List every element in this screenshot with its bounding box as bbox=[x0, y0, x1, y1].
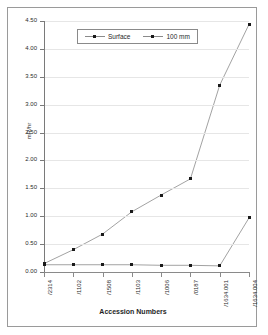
data-point-marker bbox=[189, 177, 192, 180]
x-tick-mark bbox=[249, 272, 250, 277]
legend-label-surface: Surface bbox=[108, 33, 130, 40]
y-tick-label: 4.50 bbox=[25, 16, 37, 25]
legend-marker-icon bbox=[143, 34, 163, 39]
x-tick-label: /0187 bbox=[193, 280, 200, 295]
y-tick: 4.00 bbox=[40, 49, 45, 50]
x-tick-mark bbox=[73, 272, 74, 277]
y-tick-mark bbox=[40, 133, 45, 134]
gridline bbox=[44, 244, 249, 245]
data-point-marker bbox=[248, 216, 251, 219]
y-tick-mark bbox=[40, 21, 45, 22]
x-tick-label: /1103 bbox=[135, 280, 142, 295]
legend-label-100mm: 100 mm bbox=[166, 33, 189, 40]
y-tick-label: 3.50 bbox=[25, 72, 37, 81]
gridline bbox=[44, 133, 249, 134]
y-tick: 1.50 bbox=[40, 188, 45, 189]
data-point-marker bbox=[130, 210, 133, 213]
data-point-marker bbox=[248, 23, 251, 26]
x-tick-mark bbox=[220, 272, 221, 277]
legend-item-surface[interactable]: Surface bbox=[85, 33, 130, 40]
y-tick-mark bbox=[40, 105, 45, 106]
x-tick-mark bbox=[44, 272, 45, 277]
series-line bbox=[44, 218, 249, 266]
y-tick: 0.50 bbox=[40, 244, 45, 245]
data-point-marker bbox=[160, 264, 163, 267]
y-tick-mark bbox=[40, 244, 45, 245]
y-tick-label: 0.50 bbox=[25, 239, 37, 248]
x-tick-label: /1006 bbox=[164, 280, 171, 295]
data-point-marker bbox=[130, 263, 133, 266]
y-tick-label: 4.00 bbox=[25, 44, 37, 53]
x-tick-label: /1102 bbox=[76, 280, 83, 295]
chart-figure-frame: 0.000.501.001.502.002.503.003.504.004.50… bbox=[7, 7, 257, 327]
chart-plot-canvas bbox=[8, 8, 258, 328]
y-tick-mark bbox=[40, 49, 45, 50]
x-tick-label: /1634.001 bbox=[223, 280, 230, 307]
y-tick-label: 3.00 bbox=[25, 100, 37, 109]
y-tick: 2.50 bbox=[40, 133, 45, 134]
y-axis-title: mR/hr bbox=[26, 123, 32, 139]
x-tick-label: /1634.004 bbox=[252, 280, 259, 307]
y-tick: 3.00 bbox=[40, 105, 45, 106]
gridline bbox=[44, 49, 249, 50]
y-tick: 4.50 bbox=[40, 21, 45, 22]
legend-item-100mm[interactable]: 100 mm bbox=[143, 33, 189, 40]
x-tick-mark bbox=[161, 272, 162, 277]
x-tick-label: /1508 bbox=[106, 280, 113, 295]
y-tick-label: 1.50 bbox=[25, 183, 37, 192]
y-tick: 2.00 bbox=[40, 160, 45, 161]
chart-legend: Surface 100 mm bbox=[77, 29, 198, 44]
y-tick: 1.00 bbox=[40, 216, 45, 217]
gridline bbox=[44, 77, 249, 78]
gridline bbox=[44, 21, 249, 22]
legend-marker-icon bbox=[85, 34, 105, 39]
y-tick-label: 0.00 bbox=[25, 267, 37, 276]
x-axis-title: Accession Numbers bbox=[8, 308, 258, 315]
y-tick: 3.50 bbox=[40, 77, 45, 78]
series-line bbox=[44, 24, 249, 263]
gridline bbox=[44, 105, 249, 106]
y-tick-mark bbox=[40, 216, 45, 217]
x-tick-label: /2314 bbox=[47, 280, 54, 295]
x-tick-mark bbox=[190, 272, 191, 277]
data-point-marker bbox=[72, 263, 75, 266]
y-tick-mark bbox=[40, 160, 45, 161]
data-point-marker bbox=[218, 84, 221, 87]
data-point-marker bbox=[189, 264, 192, 267]
y-axis-line bbox=[44, 21, 45, 273]
data-point-marker bbox=[160, 194, 163, 197]
y-tick-label: 1.00 bbox=[25, 211, 37, 220]
data-point-marker bbox=[101, 233, 104, 236]
x-tick-mark bbox=[103, 272, 104, 277]
y-tick-mark bbox=[40, 188, 45, 189]
gridline bbox=[44, 188, 249, 189]
x-tick-mark bbox=[132, 272, 133, 277]
data-point-marker bbox=[72, 248, 75, 251]
data-point-marker bbox=[218, 264, 221, 267]
gridline bbox=[44, 160, 249, 161]
gridline bbox=[44, 216, 249, 217]
data-point-marker bbox=[43, 263, 46, 266]
y-tick-label: 2.00 bbox=[25, 155, 37, 164]
data-point-marker bbox=[101, 263, 104, 266]
y-tick-mark bbox=[40, 77, 45, 78]
